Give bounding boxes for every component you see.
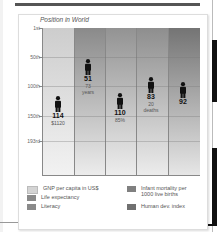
marker-life-expectancy: 51 73 years — [73, 59, 103, 95]
header-rule — [15, 3, 200, 6]
chart-title: Position in World — [40, 16, 89, 23]
gridline — [42, 141, 200, 142]
marker-annotation: deaths — [136, 107, 166, 113]
legend-label: Literacy — [41, 203, 60, 209]
page-left-edge — [0, 0, 3, 232]
y-tick-label: 100th — [18, 83, 40, 89]
marker-infant-mortality: 83 20 deaths — [136, 77, 166, 113]
legend-item-human-dev-index: Human dev. index — [127, 203, 185, 210]
person-icon — [179, 82, 187, 98]
person-icon — [116, 93, 124, 109]
legend-item-infant-mortality: Infant mortality per1000 live births — [127, 185, 187, 197]
legend-swatch — [27, 195, 36, 201]
footer-rule — [0, 222, 20, 223]
y-tick-label: 50th — [18, 54, 40, 60]
page-edge-bar — [212, 40, 217, 102]
marker-annotation: 85% — [105, 117, 135, 123]
person-icon — [54, 96, 62, 112]
marker-annotation: years — [73, 89, 103, 95]
legend-swatch — [27, 204, 36, 210]
y-tick-label: 1st — [18, 25, 40, 31]
legend-item-literacy: Literacy — [27, 203, 60, 210]
legend-item-gnp: GNP per capita in US$ — [27, 185, 99, 194]
legend-swatch — [127, 186, 136, 192]
rank-value: 110 — [105, 109, 135, 117]
rank-value: 114 — [43, 112, 73, 120]
gridline — [42, 57, 200, 58]
legend-label-line2: 1000 live births — [141, 191, 178, 197]
marker-annotation: $1120 — [43, 120, 73, 126]
legend-swatch — [27, 186, 38, 194]
legend-label: GNP per capita in US$ — [43, 185, 99, 191]
legend-label: Human dev. index — [141, 203, 185, 209]
marker-human-dev-index: 92 — [168, 82, 198, 106]
column-life-expectancy — [74, 28, 105, 175]
y-tick-label: 193rd — [18, 138, 40, 144]
legend-item-life-expectancy: Life expectancy — [27, 194, 79, 201]
legend-label: Life expectancy — [41, 194, 79, 200]
marker-gnp: 114 $1120 — [43, 96, 73, 126]
person-icon — [147, 77, 155, 93]
legend-label: Infant mortality per1000 live births — [141, 185, 187, 197]
person-icon — [84, 59, 92, 75]
legend-swatch — [127, 204, 136, 210]
page-edge-bar — [212, 148, 217, 226]
rank-value: 83 — [136, 93, 166, 101]
rank-value: 92 — [168, 98, 198, 106]
x-axis-line — [42, 175, 200, 176]
rank-value: 51 — [73, 75, 103, 83]
y-tick-label: 150th — [18, 113, 40, 119]
marker-literacy: 110 85% — [105, 93, 135, 123]
